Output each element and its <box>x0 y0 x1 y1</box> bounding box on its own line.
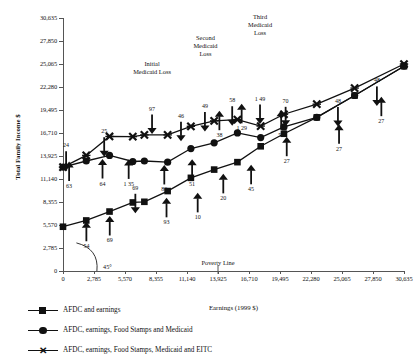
x-tick-mark <box>156 271 157 274</box>
annotation-value: 69 <box>107 237 113 243</box>
data-point-marker <box>210 117 218 124</box>
data-point-marker <box>234 159 241 166</box>
legend-marker-square-icon <box>28 305 58 315</box>
annotation-value: 48 <box>374 77 380 83</box>
legend-label: AFDC, earnings, Food Stamps and Medicaid <box>63 326 193 334</box>
annotation-value: 51 <box>189 181 195 187</box>
data-point-marker <box>257 134 264 141</box>
annotation-value: 46 <box>178 113 184 119</box>
data-point-marker <box>350 84 358 91</box>
annotation-value: 49 <box>202 103 208 109</box>
annotation-value: 10 <box>195 214 201 220</box>
annotation-value: 54 <box>83 243 89 249</box>
annotation-value: 25 <box>101 128 107 134</box>
x-tick-mark <box>342 271 343 274</box>
y-tick-label: 13,925 <box>40 153 57 159</box>
legend-marker-x-icon: ✕ <box>28 345 58 355</box>
x-tick-label: 8,355 <box>149 276 163 282</box>
data-point-marker <box>351 92 358 99</box>
data-point-marker <box>141 157 148 164</box>
annotation-arrow-icon <box>98 159 107 179</box>
x-tick-mark <box>94 271 95 274</box>
data-point-marker <box>257 143 264 150</box>
annotation-arrow-icon <box>162 198 171 218</box>
series-line <box>63 64 404 167</box>
data-point-marker <box>313 114 320 121</box>
x-tick-mark <box>404 271 405 274</box>
y-tick-label: 16,710 <box>40 130 57 136</box>
callout-label: InitialMedicaid Loss <box>133 60 171 76</box>
annotation-value: 64 <box>100 181 106 187</box>
x-tick-label: 2,785 <box>87 276 101 282</box>
x-tick-mark <box>311 271 312 274</box>
annotation-value: 1 49 <box>255 96 266 102</box>
x-tick-label: 13,925 <box>210 276 227 282</box>
legend-item-1[interactable]: AFDC and earnings <box>28 300 358 320</box>
x-tick-label: 22,280 <box>303 276 320 282</box>
y-tick-label: 25,065 <box>40 61 57 67</box>
annotation-value: 93 <box>164 219 170 225</box>
poverty-line-label: Poverty Line <box>201 260 234 266</box>
annotation-arrow-icon <box>82 222 91 242</box>
y-tick-label: 8,355 <box>43 199 57 205</box>
annotation-value: 48 <box>335 98 341 104</box>
legend-item-2[interactable]: AFDC, earnings, Food Stamps and Medicaid <box>28 320 358 340</box>
data-point-marker <box>163 131 171 138</box>
data-point-marker <box>256 122 264 129</box>
data-point-marker <box>164 159 171 166</box>
x-tick-mark <box>249 271 250 274</box>
x-tick-mark <box>63 271 64 274</box>
data-point-marker <box>211 166 218 173</box>
x-tick-mark <box>373 271 374 274</box>
y-tick-label: 22,280 <box>40 84 57 90</box>
x-tick-label: 30,635 <box>396 276 413 282</box>
legend-item-3[interactable]: ✕AFDC, earnings, Food Stamps, Medicaid a… <box>28 340 358 360</box>
callout-label: ThirdMedicaidLoss <box>248 13 272 37</box>
annotation-value: 63 <box>66 183 72 189</box>
x-tick-label: 25,065 <box>334 276 351 282</box>
callout-label: SecondMedicaidLoss <box>193 34 217 58</box>
annotation-arrow-icon <box>147 115 156 135</box>
annotation-arrow-icon <box>334 124 343 143</box>
annotation-value: 97 <box>149 106 155 112</box>
y-tick-label: 27,850 <box>40 38 57 44</box>
data-point-marker <box>187 145 194 152</box>
x-tick-mark <box>280 271 281 274</box>
annotation-value: 27 <box>284 158 290 164</box>
annotation-value: 50 <box>278 132 284 138</box>
annotation-arrow-icon <box>193 193 202 213</box>
annotation-value: 38 <box>216 132 222 138</box>
data-point-marker <box>313 101 321 108</box>
annotation-value: 27 <box>336 146 342 152</box>
data-point-marker <box>187 123 195 130</box>
data-point-marker <box>141 198 148 205</box>
x-tick-label: 0 <box>61 276 64 282</box>
y-tick-label: 30,635 <box>40 15 57 21</box>
data-point-marker <box>140 131 148 138</box>
annotation-arrow-icon <box>219 174 228 194</box>
annotation-value: 69 <box>132 185 138 191</box>
legend-label: AFDC, earnings, Food Stamps, Medicaid an… <box>63 346 212 354</box>
y-tick-label: 0 <box>54 268 57 274</box>
x-tick-label: 19,495 <box>272 276 289 282</box>
angle-label: 45° <box>103 264 112 270</box>
legend-label: AFDC and earnings <box>63 306 121 314</box>
annotation-value: 27 <box>378 118 384 124</box>
series-layer <box>63 18 404 271</box>
x-tick-label: 27,850 <box>365 276 382 282</box>
annotation-arrow-icon <box>377 97 386 117</box>
legend: AFDC and earningsAFDC, earnings, Food St… <box>28 300 358 360</box>
annotation-value: 24 <box>63 142 69 148</box>
annotation-value: 70 <box>283 98 289 104</box>
y-tick-label: 5,570 <box>43 222 57 228</box>
x-tick-mark <box>125 271 126 274</box>
annotation-value: 86 <box>161 186 167 192</box>
plot-area: 02,7855,5708,35511,14013,92516,71019,495… <box>63 18 404 271</box>
annotation-value: 20 <box>220 195 226 201</box>
annotation-value: 1 29 <box>236 125 247 131</box>
annotation-value: 45 <box>248 186 254 192</box>
data-point-marker <box>211 139 218 146</box>
y-tick-label: 11,140 <box>40 176 57 182</box>
x-axis-line <box>63 271 404 272</box>
x-tick-mark <box>187 271 188 274</box>
